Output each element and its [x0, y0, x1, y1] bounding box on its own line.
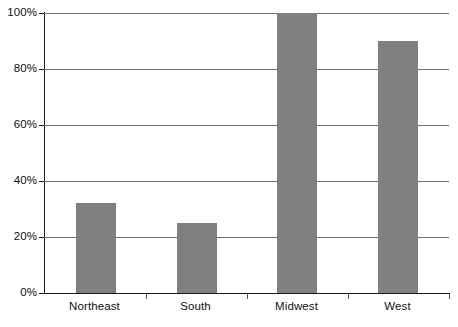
gridline-0-baseline [44, 293, 449, 294]
x-tick-mark-4 [449, 294, 450, 299]
x-tick-label-northeast: Northeast [44, 300, 145, 312]
x-tick-label-west: West [347, 300, 448, 312]
y-tick-label-60: 60% [1, 118, 37, 130]
y-tick-label-0: 0% [1, 286, 37, 298]
bar-chart: 100% 80% 60% 40% 20% 0% Northeast South … [0, 0, 458, 327]
gridline-100 [44, 13, 449, 14]
x-tick-label-midwest: Midwest [246, 300, 347, 312]
bar-south[interactable] [177, 223, 217, 293]
x-tick-mark-3 [348, 294, 349, 299]
x-axis-category-labels: Northeast South Midwest West [44, 300, 450, 322]
y-tick-label-20: 20% [1, 230, 37, 242]
y-tick-label-80: 80% [1, 62, 37, 74]
x-tick-mark-2 [247, 294, 248, 299]
y-tick-label-100: 100% [1, 6, 37, 18]
plot-area [44, 13, 449, 293]
x-tick-label-south: South [145, 300, 246, 312]
y-tick-label-40: 40% [1, 174, 37, 186]
x-tick-mark-1 [146, 294, 147, 299]
bar-midwest[interactable] [277, 13, 317, 293]
bar-west[interactable] [378, 41, 418, 293]
bar-northeast[interactable] [76, 203, 116, 293]
y-axis-tick-labels: 100% 80% 60% 40% 20% 0% [0, 0, 37, 327]
